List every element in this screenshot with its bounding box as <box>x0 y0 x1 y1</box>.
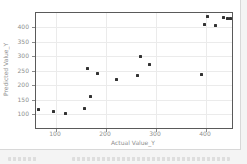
scatter-point <box>222 16 225 19</box>
scatter-point <box>37 108 40 111</box>
y-tick-mark <box>32 85 35 86</box>
y-tick-mark <box>32 100 35 101</box>
y-gridline <box>36 100 232 101</box>
y-tick-mark <box>32 114 35 115</box>
scatter-point <box>206 15 209 18</box>
y-gridline <box>36 56 232 57</box>
scatter-point <box>64 112 67 115</box>
y-gridline <box>36 42 232 43</box>
y-tick-label: 150 <box>18 95 29 102</box>
y-tick-label: 100 <box>18 110 29 117</box>
scatter-point <box>214 24 217 27</box>
y-gridline <box>36 71 232 72</box>
page: 100150200250300350400 100200300400 Predi… <box>0 0 247 164</box>
y-tick-label: 400 <box>18 22 29 29</box>
scatter-point <box>115 78 118 81</box>
y-tick-mark <box>32 42 35 43</box>
cropped-caption-remnant <box>8 157 38 161</box>
x-tick-label: 300 <box>149 130 160 137</box>
plot-area <box>35 12 233 129</box>
y-tick-label: 300 <box>18 52 29 59</box>
y-gridline <box>36 27 232 28</box>
scatter-point <box>96 72 99 75</box>
x-tick-label: 200 <box>99 130 110 137</box>
scatter-point <box>86 67 89 70</box>
y-gridline <box>36 85 232 86</box>
scatter-point <box>229 17 232 20</box>
y-tick-label: 200 <box>18 81 29 88</box>
y-tick-mark <box>32 56 35 57</box>
y-tick-mark <box>32 27 35 28</box>
y-axis-label: Predicted Value_Y <box>2 12 11 127</box>
scatter-point <box>139 55 142 58</box>
cropped-caption-remnant <box>72 157 230 161</box>
scatter-point <box>83 107 86 110</box>
scatter-point <box>200 73 203 76</box>
scatter-point <box>148 63 151 66</box>
y-tick-mark <box>32 71 35 72</box>
scatter-point <box>136 74 139 77</box>
y-tick-label: 350 <box>18 37 29 44</box>
x-tick-labels: 100200300400 <box>35 130 231 138</box>
x-axis-label: Actual Value_Y <box>35 139 231 146</box>
x-tick-label: 100 <box>49 130 60 137</box>
scatter-chart-panel: 100150200250300350400 100200300400 Predi… <box>0 0 241 150</box>
y-tick-label: 250 <box>18 66 29 73</box>
scatter-point <box>89 95 92 98</box>
scatter-point <box>203 23 206 26</box>
scatter-point <box>52 110 55 113</box>
x-tick-label: 400 <box>199 130 210 137</box>
